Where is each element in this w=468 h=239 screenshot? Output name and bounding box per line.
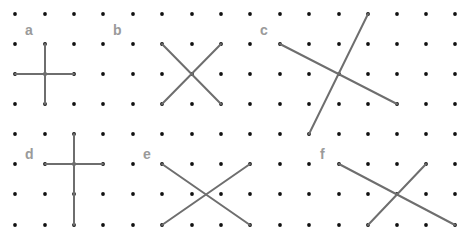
grid-dot bbox=[278, 162, 282, 166]
grid-dot bbox=[131, 192, 135, 196]
figure-e bbox=[162, 164, 250, 225]
grid-dot bbox=[219, 132, 223, 136]
grid-dot bbox=[13, 42, 17, 46]
grid-dot bbox=[424, 192, 428, 196]
grid-dot bbox=[307, 192, 311, 196]
grid-dot bbox=[101, 102, 105, 106]
figure-label-a: a bbox=[25, 22, 33, 38]
grid-dot bbox=[278, 223, 282, 227]
grid-dot bbox=[278, 12, 282, 16]
grid-dot bbox=[13, 132, 17, 136]
grid-dot bbox=[453, 102, 457, 106]
grid-dot bbox=[307, 42, 311, 46]
figure-label-f: f bbox=[320, 146, 325, 162]
grid-dot bbox=[190, 42, 194, 46]
grid-dot bbox=[160, 132, 164, 136]
grid-dot bbox=[248, 132, 252, 136]
grid-dot bbox=[278, 102, 282, 106]
grid-dot bbox=[43, 12, 47, 16]
grid-dot bbox=[307, 12, 311, 16]
grid-dot bbox=[219, 192, 223, 196]
grid-dot bbox=[72, 12, 76, 16]
grid-dot bbox=[101, 192, 105, 196]
figure-b bbox=[162, 44, 221, 104]
grid-dot bbox=[160, 192, 164, 196]
figure-c-segment-2 bbox=[309, 14, 368, 134]
grid-dot bbox=[248, 42, 252, 46]
figure-label-d: d bbox=[25, 146, 34, 162]
figure-f bbox=[339, 164, 455, 225]
grid-dot bbox=[395, 132, 399, 136]
grid-dot bbox=[248, 12, 252, 16]
grid-dot bbox=[278, 132, 282, 136]
grid-dot bbox=[307, 223, 311, 227]
grid-dot bbox=[190, 162, 194, 166]
grid-dot bbox=[453, 72, 457, 76]
grid-dot bbox=[131, 42, 135, 46]
grid-dot bbox=[13, 102, 17, 106]
grid-dot bbox=[160, 72, 164, 76]
grid-dot bbox=[337, 223, 341, 227]
grid-dot bbox=[337, 102, 341, 106]
grid-dot bbox=[366, 192, 370, 196]
grid-dot bbox=[219, 72, 223, 76]
dot-grid-diagram: abcdef bbox=[0, 0, 468, 239]
grid-dot bbox=[101, 12, 105, 16]
grid-dot bbox=[307, 72, 311, 76]
grid-dot bbox=[366, 162, 370, 166]
grid-dot bbox=[424, 12, 428, 16]
grid-dot bbox=[72, 42, 76, 46]
grid-dot bbox=[248, 102, 252, 106]
grid-dot bbox=[131, 132, 135, 136]
grid-dot bbox=[453, 12, 457, 16]
grid-dot bbox=[453, 162, 457, 166]
grid-dot bbox=[248, 192, 252, 196]
figure-c bbox=[280, 14, 397, 134]
grid-dot bbox=[337, 42, 341, 46]
grid-dot bbox=[424, 42, 428, 46]
grid-dot bbox=[337, 12, 341, 16]
grid-dot bbox=[43, 223, 47, 227]
grid-dot bbox=[278, 72, 282, 76]
figure-a bbox=[15, 44, 74, 104]
grid-dot bbox=[278, 192, 282, 196]
grid-dot bbox=[13, 162, 17, 166]
grid-dot bbox=[366, 102, 370, 106]
grid-dot bbox=[366, 72, 370, 76]
grid-dot bbox=[424, 72, 428, 76]
grid-dot bbox=[101, 223, 105, 227]
grid-dot bbox=[366, 132, 370, 136]
grid-dot bbox=[219, 162, 223, 166]
grid-dot bbox=[43, 192, 47, 196]
grid-dot bbox=[131, 102, 135, 106]
grid-dot bbox=[160, 12, 164, 16]
grid-dot bbox=[424, 223, 428, 227]
figure-label-c: c bbox=[260, 22, 268, 38]
grid-dot bbox=[395, 42, 399, 46]
grid-dot bbox=[395, 72, 399, 76]
figure-label-b: b bbox=[113, 22, 122, 38]
grid-dot bbox=[13, 192, 17, 196]
grid-dot bbox=[453, 42, 457, 46]
figure-d bbox=[45, 134, 103, 225]
grid-dot bbox=[190, 192, 194, 196]
grid-dot bbox=[190, 223, 194, 227]
grid-dot bbox=[13, 12, 17, 16]
grid-dot bbox=[453, 132, 457, 136]
grid-dots bbox=[13, 12, 457, 227]
grid-dot bbox=[395, 12, 399, 16]
grid-dot bbox=[190, 12, 194, 16]
grid-dot bbox=[424, 102, 428, 106]
grid-dot bbox=[366, 42, 370, 46]
grid-dot bbox=[190, 132, 194, 136]
grid-dot bbox=[395, 223, 399, 227]
figure-label-e: e bbox=[143, 146, 151, 162]
grid-dot bbox=[395, 162, 399, 166]
grid-dot bbox=[131, 12, 135, 16]
grid-dot bbox=[424, 132, 428, 136]
grid-dot bbox=[72, 102, 76, 106]
grid-dot bbox=[190, 102, 194, 106]
grid-dot bbox=[101, 132, 105, 136]
grid-dot bbox=[43, 132, 47, 136]
grid-dot bbox=[131, 162, 135, 166]
